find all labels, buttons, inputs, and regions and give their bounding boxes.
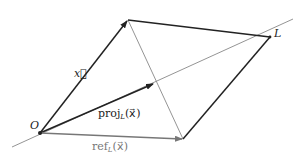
reflection-diagram: [0, 0, 308, 160]
label-proj: projL(x⃗): [98, 108, 141, 121]
reflection-segment: [128, 20, 183, 139]
parallelogram-top-edge: [128, 20, 270, 37]
vector-ref: [40, 133, 182, 139]
parallelogram-right-edge: [183, 37, 270, 139]
label-origin: O: [30, 120, 39, 131]
line-L: [12, 19, 293, 147]
L-corner-point: [269, 36, 272, 39]
label-ref: refL(x⃗): [92, 141, 128, 154]
label-L: L: [274, 28, 281, 39]
label-x: x⃗: [74, 68, 87, 79]
